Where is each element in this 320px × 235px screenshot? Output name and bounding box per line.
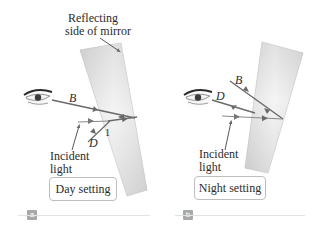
eye-icon xyxy=(178,84,218,112)
panel-a xyxy=(18,38,147,196)
incident-label-line1-a: Incident xyxy=(50,150,89,162)
ray-label-b-a: B xyxy=(69,92,76,104)
panel-b xyxy=(178,42,303,173)
panel-rule-a xyxy=(18,215,150,216)
day-setting-label: Day setting xyxy=(56,182,111,197)
eye-icon xyxy=(18,84,58,112)
ray-label-d-b: D xyxy=(216,90,225,102)
night-setting-label: Night setting xyxy=(199,181,261,196)
panel-rule-b xyxy=(175,215,305,216)
night-setting-callout: Night setting xyxy=(194,176,266,200)
incident-label-line1-b: Incident xyxy=(199,148,238,160)
ray-label-1-a: 1 xyxy=(105,127,110,139)
ray-label-d-a: D xyxy=(89,137,98,149)
mirror-label-line2: side of mirror xyxy=(65,25,131,37)
incident-label-line2-b: light xyxy=(199,161,221,173)
mirror-label-line1: Reflecting xyxy=(68,12,118,24)
incident-pointer-b xyxy=(225,122,231,150)
day-setting-callout: Day setting xyxy=(49,177,117,201)
incident-pointer-a xyxy=(72,126,79,150)
ray-label-b-b: B xyxy=(235,74,242,86)
incident-label-line2-a: light xyxy=(50,163,72,175)
rearview-mirror-diagram xyxy=(0,0,320,235)
